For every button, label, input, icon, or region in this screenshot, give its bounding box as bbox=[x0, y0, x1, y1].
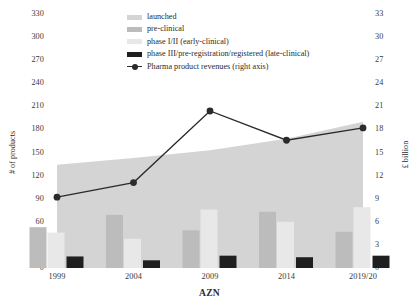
revenue-marker-2019-20 bbox=[360, 125, 367, 132]
bar-pre-clinical-2009 bbox=[183, 230, 200, 268]
bar-late-clinical-1999 bbox=[67, 256, 84, 268]
bar-early-clinical-2014 bbox=[277, 222, 294, 268]
bar-late-clinical-2009 bbox=[220, 256, 237, 268]
bar-pre-clinical-1999 bbox=[30, 227, 47, 268]
bar-early-clinical-2019-20 bbox=[354, 207, 371, 268]
bar-early-clinical-1999 bbox=[48, 233, 65, 268]
chart-container: 3303002702402101801501209060300 33302724… bbox=[0, 0, 419, 308]
revenue-marker-1999 bbox=[54, 194, 61, 201]
bar-pre-clinical-2004 bbox=[106, 215, 123, 268]
revenue-marker-2014 bbox=[283, 137, 290, 144]
bar-pre-clinical-2014 bbox=[259, 212, 276, 268]
bar-late-clinical-2014 bbox=[296, 257, 313, 268]
bar-late-clinical-2019-20 bbox=[373, 256, 390, 268]
bar-early-clinical-2004 bbox=[124, 239, 141, 268]
revenue-marker-2009 bbox=[207, 108, 214, 115]
bar-late-clinical-2004 bbox=[143, 260, 160, 268]
revenue-marker-2004 bbox=[130, 179, 137, 186]
plot-area bbox=[0, 0, 419, 308]
bar-early-clinical-2009 bbox=[201, 210, 218, 268]
bar-pre-clinical-2019-20 bbox=[336, 232, 353, 268]
